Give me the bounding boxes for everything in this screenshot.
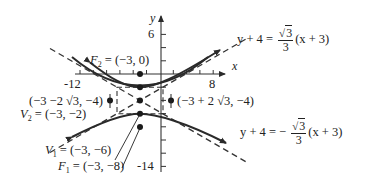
asymptote-lower-equation: y + 4 = − √33(x + 3) xyxy=(240,120,342,146)
x-tick-neg12: -12 xyxy=(64,78,81,91)
label-left-point: (−3 −2 √3, −4) xyxy=(29,95,103,108)
asymptote-upper-equation: y + 4 = √33(x + 3) xyxy=(237,27,329,53)
x-axis-label: x xyxy=(232,60,237,72)
point-v2 xyxy=(137,84,143,90)
point-f2 xyxy=(137,71,143,77)
label-f1: F1 = (−3, −8) xyxy=(58,160,124,175)
label-f2: F2 = (−3, 0) xyxy=(90,54,149,69)
point-v1 xyxy=(137,111,143,117)
y-axis-label: y xyxy=(150,12,155,24)
label-v2: V2 = (−3, −2) xyxy=(20,108,86,123)
label-right-point: (−3 + 2 √3, −4) xyxy=(177,95,254,108)
label-v1: V1 = (−3, −6) xyxy=(45,144,111,159)
hyperbola-lower-curve xyxy=(72,114,226,143)
x-tick-8: 8 xyxy=(209,78,215,91)
y-tick-6: 6 xyxy=(148,28,154,41)
point-center xyxy=(137,98,143,104)
y-tick-neg14: -14 xyxy=(137,160,154,173)
